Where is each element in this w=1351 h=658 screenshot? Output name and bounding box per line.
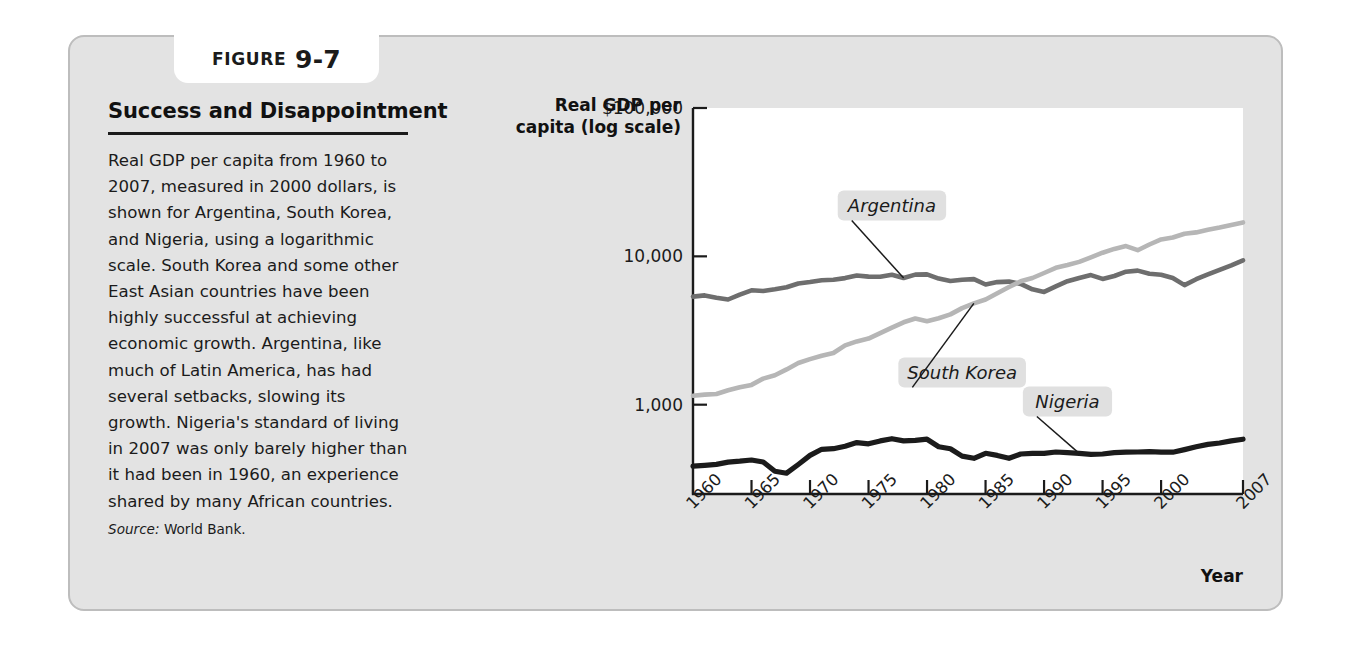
y-axis-title-line1: Real GDP per: [555, 95, 682, 115]
chart-area: $100,00010,0001,000 19601965197019751980…: [70, 37, 1285, 613]
figure-card: FIGURE 9-7 Success and Disappointment Re…: [68, 35, 1283, 611]
y-tick-label: 1,000: [634, 395, 683, 415]
y-axis-ticks: $100,00010,0001,000: [602, 98, 707, 415]
annotation-label: Argentina: [847, 195, 936, 216]
y-axis-title-line2: capita (log scale): [516, 117, 681, 137]
plot-background: [693, 108, 1243, 494]
y-tick-label: 10,000: [624, 246, 683, 266]
x-axis-title: Year: [1200, 566, 1244, 586]
annotation-label: Nigeria: [1035, 391, 1099, 412]
gdp-line-chart: $100,00010,0001,000 19601965197019751980…: [70, 37, 1285, 613]
